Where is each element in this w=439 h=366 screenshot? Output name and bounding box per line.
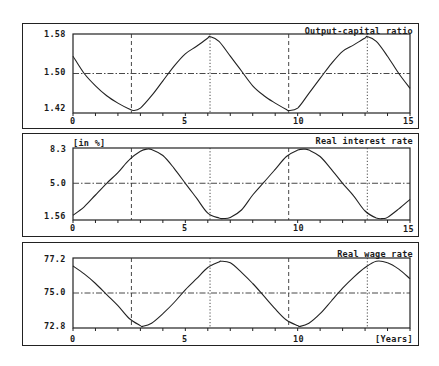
series-line xyxy=(73,149,410,219)
plot-canvas xyxy=(0,0,439,366)
series-line xyxy=(73,261,410,327)
